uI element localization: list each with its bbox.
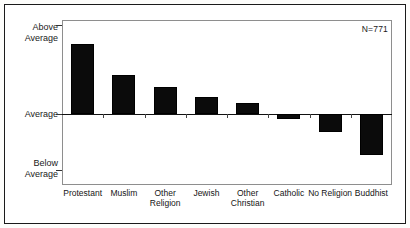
bar [195, 97, 218, 114]
bar [236, 103, 259, 114]
bar [277, 114, 300, 119]
y-axis-label-average: Average [0, 109, 58, 120]
x-axis-category-label-line: Christian [221, 198, 274, 208]
bar-series [62, 20, 392, 185]
x-axis-category-label-line: Religion [139, 198, 192, 208]
baseline-tick [310, 114, 311, 118]
y-axis-label-below-average-line1: Below [0, 158, 58, 169]
bar [71, 44, 94, 114]
x-axis-category-label: Buddhist [345, 188, 398, 198]
bar [360, 114, 383, 155]
bar [319, 114, 342, 132]
chart-figure: Above Average Average Below Average Prot… [0, 0, 410, 228]
y-axis-label-above-average-line1: Above [0, 22, 58, 33]
bar [112, 75, 135, 114]
baseline-tick [268, 114, 269, 118]
baseline-tick [227, 114, 228, 118]
x-axis-category-label-line: Buddhist [345, 188, 398, 198]
y-axis-label-below-average: Below Average [0, 158, 58, 180]
baseline-tick [145, 114, 146, 118]
baseline-tick [351, 114, 352, 118]
x-axis-category-labels: ProtestantMuslimOtherReligionJewishOther… [62, 188, 392, 224]
y-axis-label-above-average-line2: Average [0, 33, 58, 44]
y-axis-label-average-text: Average [0, 109, 58, 120]
y-axis-label-above-average: Above Average [0, 22, 58, 44]
baseline-tick [103, 114, 104, 118]
bar [154, 87, 177, 114]
sample-size-annotation: N=771 [362, 24, 388, 34]
y-axis-label-below-average-line2: Average [0, 169, 58, 180]
baseline-tick [186, 114, 187, 118]
